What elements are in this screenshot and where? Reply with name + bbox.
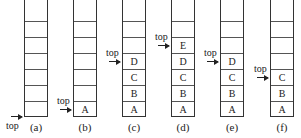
stack-cell (123, 21, 145, 37)
stack-caption: (d) (168, 121, 198, 133)
stack-caption: (f) (267, 121, 297, 133)
stack-cell: A (221, 101, 243, 117)
top-pointer-label: top (204, 47, 217, 58)
arrow-icon (109, 61, 120, 62)
stack-d: ABCDE (171, 0, 195, 117)
stack-cell (74, 21, 96, 37)
stack-cell (271, 21, 293, 37)
stack-cell (172, 21, 194, 37)
stack-cell: C (172, 69, 194, 85)
stack-cell: C (221, 69, 243, 85)
stack-caption: (e) (217, 121, 247, 133)
stack-cell (271, 37, 293, 53)
stack-cell: A (271, 101, 293, 117)
stack-b: A (73, 0, 97, 117)
stack-cell: A (74, 101, 96, 117)
stack-c: ABCD (122, 0, 146, 117)
stack-cell: C (123, 69, 145, 85)
top-pointer-label: top (6, 120, 19, 131)
stack-cell: A (123, 101, 145, 117)
stack-cell: B (271, 85, 293, 101)
stack-cell: D (221, 53, 243, 69)
top-pointer-label: top (106, 47, 119, 58)
stack-cell (74, 37, 96, 53)
stack-caption: (b) (70, 121, 100, 133)
stack-cell: C (271, 69, 293, 85)
stack-cell: E (172, 37, 194, 53)
top-pointer-label: top (254, 63, 267, 74)
arrow-icon (11, 116, 22, 117)
arrow-icon (207, 61, 218, 62)
stack-cell (25, 101, 47, 117)
stack-cell (74, 53, 96, 69)
stack-cell: B (123, 85, 145, 101)
stack-cell (271, 53, 293, 69)
top-pointer-label: top (155, 31, 168, 42)
stack-cell (123, 37, 145, 53)
stack-cell (221, 37, 243, 53)
stack-a (24, 0, 48, 117)
arrow-icon (158, 45, 169, 46)
stack-cell (25, 69, 47, 85)
top-pointer-label: top (57, 95, 70, 106)
stack-f: ABC (270, 0, 294, 117)
stack-cell: B (221, 85, 243, 101)
stack-cell (25, 21, 47, 37)
stack-e: ABCD (220, 0, 244, 117)
stack-caption: (a) (21, 121, 51, 133)
stack-cell (25, 85, 47, 101)
stack-cell: A (172, 101, 194, 117)
stack-cell (25, 53, 47, 69)
arrow-icon (257, 77, 268, 78)
stack-cell: B (172, 85, 194, 101)
stack-caption: (c) (119, 121, 149, 133)
stack-cell (74, 85, 96, 101)
stack-cell (25, 37, 47, 53)
stack-cell: D (123, 53, 145, 69)
stack-cell (74, 69, 96, 85)
stack-cell: D (172, 53, 194, 69)
arrow-icon (60, 109, 71, 110)
stack-cell (221, 21, 243, 37)
